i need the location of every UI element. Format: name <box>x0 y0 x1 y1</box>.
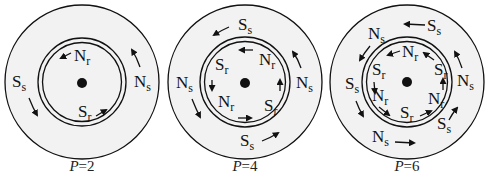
diagram-p2: Nr Sr Ss Ns P=2 <box>5 5 159 174</box>
diagram-p6: Ss Ns Ss Ns Ns Ss Nr Sr Sr Nr Nr Sr P=6 <box>330 5 484 174</box>
pole-diagrams-figure: Nr Sr Ss Ns P=2 Ss Ns Ns Ss Nr Sr Sr Nr <box>0 0 492 188</box>
shaft-dot <box>240 78 250 88</box>
pole-count-caption: P=6 <box>393 158 420 174</box>
pole-count-caption: P=4 <box>231 158 258 174</box>
diagram-p4: Ss Ns Ns Ss Nr Sr Sr Nr P=4 <box>168 5 322 174</box>
pole-count-caption: P=2 <box>68 158 94 174</box>
shaft-dot <box>77 78 87 88</box>
shaft-dot <box>402 77 412 87</box>
